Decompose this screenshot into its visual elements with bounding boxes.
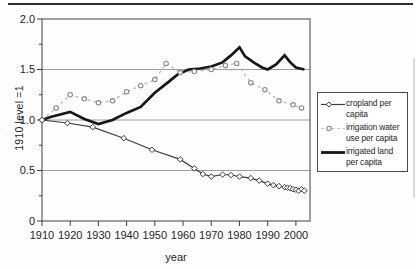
diamond-marker xyxy=(237,174,243,180)
circle-marker xyxy=(291,103,295,107)
legend-entry-0: cropland percapita xyxy=(321,98,405,120)
diamond-marker xyxy=(248,175,254,181)
circle-marker xyxy=(54,106,58,110)
diamond-marker xyxy=(149,147,155,153)
circle-marker xyxy=(124,90,128,94)
diamond-marker xyxy=(65,120,71,126)
thick-solid-legend-icon xyxy=(321,147,346,158)
x-axis-title: year xyxy=(165,251,186,263)
circle-marker xyxy=(96,101,100,105)
diamond-marker xyxy=(121,135,127,141)
x-tick-label-1990: 1990 xyxy=(255,229,279,241)
circle-marker xyxy=(164,61,168,65)
circle-marker xyxy=(82,97,86,101)
circle-marker xyxy=(68,93,72,97)
y-tick-label-1.5: 1.5 xyxy=(20,63,35,75)
circle-marker xyxy=(192,69,196,73)
y-tick-label-0: 0 xyxy=(29,215,35,227)
diamond-marker xyxy=(90,124,96,130)
x-tick-label-2000: 2000 xyxy=(284,229,308,241)
legend-entry-2: irrigated landper capita xyxy=(321,146,405,168)
circle-marker xyxy=(209,67,213,71)
circle-marker xyxy=(249,80,253,84)
circle-marker xyxy=(277,99,281,103)
diamond-marker xyxy=(276,183,282,189)
legend-label: irrigation wateruse per capita xyxy=(346,122,399,144)
x-tick-label-1910: 1910 xyxy=(30,229,54,241)
chart-legend: cropland percapitairrigation wateruse pe… xyxy=(317,92,408,172)
legend-label: cropland percapita xyxy=(346,98,391,120)
x-tick-label-1960: 1960 xyxy=(171,229,195,241)
circle-marker xyxy=(234,61,238,65)
legend-label: irrigated landper capita xyxy=(346,146,393,168)
y-tick-label-0.5: 0.5 xyxy=(20,164,35,176)
x-tick-label-1930: 1930 xyxy=(86,229,110,241)
circle-marker xyxy=(223,63,227,67)
diamond-marker xyxy=(208,174,214,180)
dashed-circle-legend-icon xyxy=(321,123,346,134)
series-markers-irrigation-water xyxy=(40,61,304,122)
diamond-marker xyxy=(256,178,262,184)
solid-diamond-legend-icon xyxy=(321,99,346,110)
diamond-marker xyxy=(271,182,277,188)
x-tick-label-1920: 1920 xyxy=(58,229,82,241)
circle-marker xyxy=(263,88,267,92)
x-tick-label-1970: 1970 xyxy=(199,229,223,241)
legend-entry-1: irrigation wateruse per capita xyxy=(321,122,405,144)
series-line-cropland-per-capita xyxy=(42,120,304,191)
x-tick-label-1940: 1940 xyxy=(114,229,138,241)
y-tick-label-2.0: 2.0 xyxy=(20,13,35,25)
diamond-marker xyxy=(220,172,226,178)
x-tick-label-1950: 1950 xyxy=(143,229,167,241)
circle-marker xyxy=(139,83,143,87)
series-line-irrigation-water-use-per-capita xyxy=(42,63,302,120)
figure: 00.51.01.52.0191019201930194019501960197… xyxy=(0,0,416,269)
diamond-marker xyxy=(265,181,271,187)
diamond-marker xyxy=(228,172,234,178)
circle-marker xyxy=(110,99,114,103)
x-tick-label-1980: 1980 xyxy=(227,229,251,241)
series-line-irrigated-land-per-capita xyxy=(42,47,304,124)
series-markers-cropland xyxy=(39,117,307,193)
circle-marker xyxy=(299,106,303,110)
circle-marker xyxy=(178,70,182,74)
circle-marker xyxy=(153,77,157,81)
y-axis-title: 1910 level =1 xyxy=(13,85,25,150)
